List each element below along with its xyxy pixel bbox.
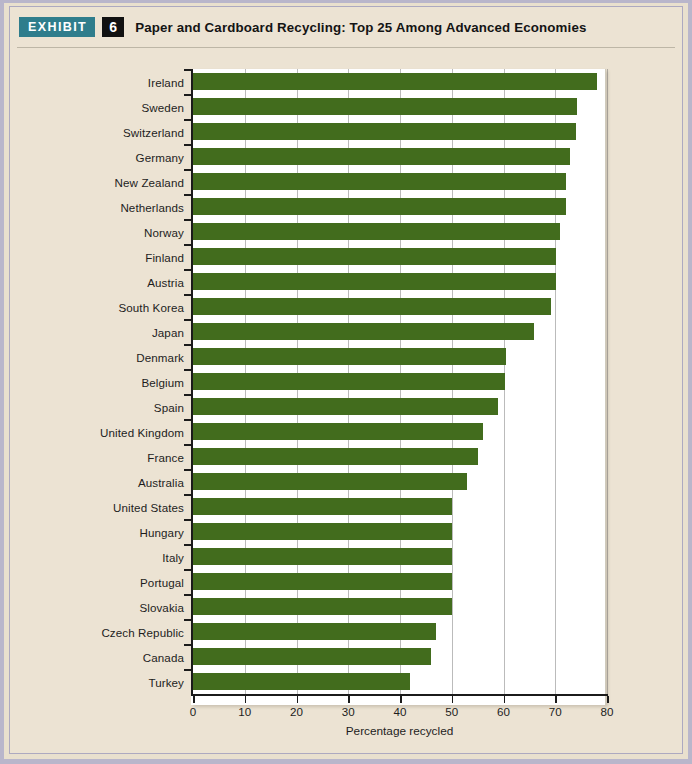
bar bbox=[193, 548, 452, 565]
category-label: South Korea bbox=[118, 300, 184, 313]
category-label: Japan bbox=[152, 325, 184, 338]
category-label: Netherlands bbox=[120, 200, 184, 213]
bar-row: Netherlands bbox=[10, 194, 682, 219]
bar bbox=[193, 648, 431, 665]
bar bbox=[193, 398, 498, 415]
bar-row: Turkey bbox=[10, 669, 682, 694]
category-label: Denmark bbox=[136, 350, 184, 363]
bar bbox=[193, 73, 597, 90]
bar-row: Denmark bbox=[10, 344, 682, 369]
bar bbox=[193, 248, 556, 265]
bar-row: New Zealand bbox=[10, 169, 682, 194]
category-label: France bbox=[147, 450, 184, 463]
category-label: Finland bbox=[145, 250, 184, 263]
category-label: Italy bbox=[162, 550, 184, 563]
x-axis-tick bbox=[193, 696, 195, 703]
bar bbox=[193, 223, 560, 240]
exhibit-header: EXHIBIT 6 Paper and Cardboard Recycling:… bbox=[10, 7, 682, 47]
bar bbox=[193, 473, 467, 490]
category-label: Australia bbox=[138, 475, 184, 488]
category-label: Spain bbox=[154, 400, 184, 413]
category-label: Hungary bbox=[139, 525, 184, 538]
bar-row: United Kingdom bbox=[10, 419, 682, 444]
category-label: Canada bbox=[143, 650, 184, 663]
category-label: New Zealand bbox=[115, 175, 184, 188]
x-axis-tick bbox=[607, 696, 609, 703]
bar-row: Czech Republic bbox=[10, 619, 682, 644]
category-label: Czech Republic bbox=[101, 625, 184, 638]
category-label: Portugal bbox=[140, 575, 184, 588]
x-axis-tick-label: 50 bbox=[445, 705, 458, 718]
bar-row: Canada bbox=[10, 644, 682, 669]
bar-row: Ireland bbox=[10, 69, 682, 94]
chart-area: IrelandSwedenSwitzerlandGermanyNew Zeala… bbox=[10, 51, 682, 753]
category-label: United States bbox=[113, 500, 184, 513]
category-label: Germany bbox=[136, 150, 184, 163]
bar-row: Portugal bbox=[10, 569, 682, 594]
bar bbox=[193, 673, 410, 690]
category-label: Slovakia bbox=[139, 600, 184, 613]
bar-row: Hungary bbox=[10, 519, 682, 544]
bar-row: Austria bbox=[10, 269, 682, 294]
x-axis-tick bbox=[297, 696, 299, 703]
bar bbox=[193, 373, 505, 390]
category-label: Norway bbox=[144, 225, 184, 238]
bar bbox=[193, 298, 551, 315]
bar bbox=[193, 573, 452, 590]
x-axis-tick-label: 40 bbox=[394, 705, 407, 718]
bar-row: Germany bbox=[10, 144, 682, 169]
x-axis-tick bbox=[504, 696, 506, 703]
bar-rows: IrelandSwedenSwitzerlandGermanyNew Zeala… bbox=[10, 69, 682, 694]
x-axis-tick bbox=[555, 696, 557, 703]
bar-row: Norway bbox=[10, 219, 682, 244]
bar-row: Belgium bbox=[10, 369, 682, 394]
header-divider bbox=[17, 47, 675, 48]
bar-row: France bbox=[10, 444, 682, 469]
bar bbox=[193, 323, 534, 340]
bar bbox=[193, 173, 566, 190]
bar-row: Italy bbox=[10, 544, 682, 569]
bar bbox=[193, 123, 576, 140]
category-label: Austria bbox=[147, 275, 184, 288]
bar bbox=[193, 448, 478, 465]
bar-row: South Korea bbox=[10, 294, 682, 319]
exhibit-title: Paper and Cardboard Recycling: Top 25 Am… bbox=[135, 20, 586, 35]
bar-row: Slovakia bbox=[10, 594, 682, 619]
bar bbox=[193, 598, 452, 615]
x-axis-tick bbox=[452, 696, 454, 703]
bar-row: Spain bbox=[10, 394, 682, 419]
bar bbox=[193, 523, 452, 540]
exhibit-page: EXHIBIT 6 Paper and Cardboard Recycling:… bbox=[0, 0, 692, 764]
bar-row: Australia bbox=[10, 469, 682, 494]
x-axis-tick-label: 10 bbox=[238, 705, 251, 718]
bar bbox=[193, 623, 436, 640]
x-axis-tick-label: 60 bbox=[497, 705, 510, 718]
x-axis-tick-label: 0 bbox=[190, 705, 196, 718]
exhibit-badge: EXHIBIT bbox=[19, 17, 95, 37]
bar bbox=[193, 273, 556, 290]
y-axis-line bbox=[191, 69, 193, 694]
bar-row: Switzerland bbox=[10, 119, 682, 144]
bar bbox=[193, 498, 452, 515]
x-axis-title: Percentage recycled bbox=[191, 724, 608, 738]
bar-row: United States bbox=[10, 494, 682, 519]
bar bbox=[193, 198, 566, 215]
x-axis-tick bbox=[245, 696, 247, 703]
x-axis-tick-label: 20 bbox=[290, 705, 303, 718]
category-label: United Kingdom bbox=[100, 425, 184, 438]
x-axis-ticks: 01020304050607080 bbox=[10, 696, 682, 706]
bar bbox=[193, 148, 570, 165]
x-axis-tick-label: 70 bbox=[549, 705, 562, 718]
bar bbox=[193, 98, 577, 115]
x-axis-tick-label: 30 bbox=[342, 705, 355, 718]
bar bbox=[193, 348, 506, 365]
exhibit-number-badge: 6 bbox=[102, 17, 124, 37]
bar-row: Finland bbox=[10, 244, 682, 269]
bar-row: Japan bbox=[10, 319, 682, 344]
category-label: Switzerland bbox=[123, 125, 184, 138]
category-label: Belgium bbox=[141, 375, 184, 388]
bar bbox=[193, 423, 483, 440]
exhibit-inner-frame: EXHIBIT 6 Paper and Cardboard Recycling:… bbox=[9, 6, 683, 754]
bar-row: Sweden bbox=[10, 94, 682, 119]
category-label: Ireland bbox=[148, 75, 184, 88]
